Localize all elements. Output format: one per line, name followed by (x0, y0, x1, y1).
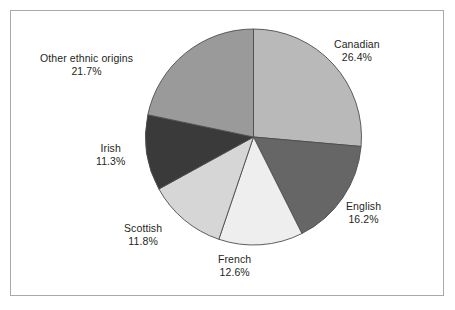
slice-label-canadian-name: Canadian (334, 38, 380, 51)
slice-label-scottish-name: Scottish (124, 222, 162, 235)
slice-label-scottish-value: 11.8% (124, 235, 162, 248)
pie-chart-figure: Canadian 26.4% English 16.2% French 12.6… (0, 0, 455, 310)
slice-label-french: French 12.6% (218, 253, 251, 279)
slice-label-english: English 16.2% (346, 200, 381, 226)
slice-label-english-value: 16.2% (346, 213, 381, 226)
slice-label-canadian: Canadian 26.4% (334, 38, 380, 64)
slice-label-scottish: Scottish 11.8% (124, 222, 162, 248)
slice-label-irish: Irish 11.3% (96, 142, 126, 168)
slice-label-irish-name: Irish (96, 142, 126, 155)
pie-slice-group (145, 29, 361, 245)
slice-label-french-value: 12.6% (218, 266, 251, 279)
slice-label-other-value: 21.7% (40, 65, 133, 78)
slice-label-french-name: French (218, 253, 251, 266)
slice-label-other-ethnic-origins: Other ethnic origins 21.7% (40, 52, 133, 78)
slice-label-canadian-value: 26.4% (334, 51, 380, 64)
slice-label-irish-value: 11.3% (96, 155, 126, 168)
slice-label-other-name: Other ethnic origins (40, 52, 133, 65)
slice-label-english-name: English (346, 200, 381, 213)
